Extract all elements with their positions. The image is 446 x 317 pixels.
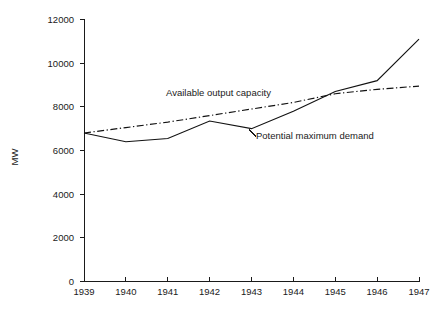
x-tick-label-1941: 1941 xyxy=(157,286,178,297)
y-axis-title: MW xyxy=(9,149,20,166)
x-tick-label-1940: 1940 xyxy=(115,286,136,297)
y-tick-label-4000: 4000 xyxy=(53,189,74,200)
x-tick-label-1946: 1946 xyxy=(367,286,388,297)
y-tick-label-12000: 12000 xyxy=(48,14,74,25)
x-tick-label-1943: 1943 xyxy=(241,286,262,297)
x-axis-tick-labels: 1939 1940 1941 1942 1943 1944 1945 1946 … xyxy=(73,286,429,297)
y-tick-label-2000: 2000 xyxy=(53,232,74,243)
y-tick-label-6000: 6000 xyxy=(53,145,74,156)
annotation-potential-maximum-demand: Potential maximum demand xyxy=(256,130,374,141)
x-axis-ticks xyxy=(84,277,419,282)
x-tick-label-1942: 1942 xyxy=(199,286,220,297)
y-axis-ticks xyxy=(80,20,85,282)
x-tick-label-1947: 1947 xyxy=(408,286,429,297)
annotation-available-output-capacity: Available output capacity xyxy=(166,87,271,98)
demand-label-leader-line xyxy=(249,130,256,137)
y-axis-tick-labels: 0 2000 4000 6000 8000 10000 12000 xyxy=(48,14,74,287)
chart-container: 0 2000 4000 6000 8000 10000 12000 1939 1… xyxy=(0,0,446,317)
x-tick-label-1944: 1944 xyxy=(283,286,304,297)
y-tick-label-8000: 8000 xyxy=(53,101,74,112)
y-tick-label-10000: 10000 xyxy=(48,58,74,69)
x-tick-label-1945: 1945 xyxy=(325,286,346,297)
line-chart: 0 2000 4000 6000 8000 10000 12000 1939 1… xyxy=(0,0,446,317)
x-tick-label-1939: 1939 xyxy=(73,286,94,297)
